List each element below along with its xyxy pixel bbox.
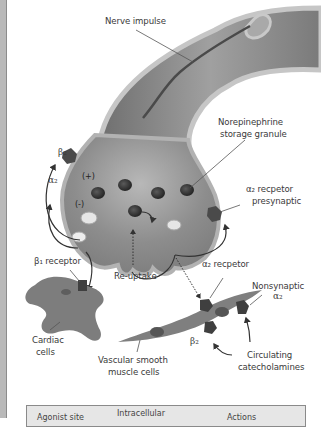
label-vascular-2: muscle cells: [108, 367, 160, 378]
label-vascular-1: Vascular smooth: [98, 355, 168, 366]
table-header-intracellular: Intracellular: [117, 406, 197, 426]
table-header-agonist-site: Agonist site: [27, 406, 117, 426]
label-alpha2-presynaptic-1: α₂ recpetor: [246, 184, 293, 195]
label-minus: (-): [75, 200, 84, 209]
cardiac-cell: [25, 277, 103, 341]
label-plus: (+): [82, 172, 95, 181]
label-alpha2-presynaptic-2: presynaptic: [252, 196, 301, 207]
label-nerve-impulse: Nerve impulse: [105, 16, 166, 27]
axon: [100, 8, 321, 150]
label-reuptake: Re-uptake: [114, 271, 157, 282]
label-alpha2-left: α₂: [48, 175, 58, 185]
table-header-actions: Actions: [197, 406, 256, 426]
receptor-table-header: Agonist site Intracellular Actions: [26, 405, 306, 427]
vascular-smooth-muscle-cell: [118, 290, 262, 342]
label-cardiac-1: Cardiac: [32, 335, 64, 346]
label-alpha2-receptor: α₂ recpetor: [202, 259, 249, 270]
label-circulating-1: Circulating: [247, 350, 292, 361]
label-storage-granule-1: Norepinephrine: [218, 117, 283, 128]
label-beta1-receptor: β₁ receptor: [34, 256, 81, 267]
label-nonsynaptic-2: α₂: [273, 291, 283, 301]
presynaptic-terminal: [62, 135, 219, 275]
label-beta2-presynaptic: β₂: [58, 147, 67, 157]
label-beta2-vascular: β₂: [190, 336, 199, 346]
label-circulating-2: catecholamines: [238, 362, 304, 373]
label-cardiac-2: cells: [36, 347, 55, 358]
label-storage-granule-2: storage granule: [220, 129, 287, 140]
